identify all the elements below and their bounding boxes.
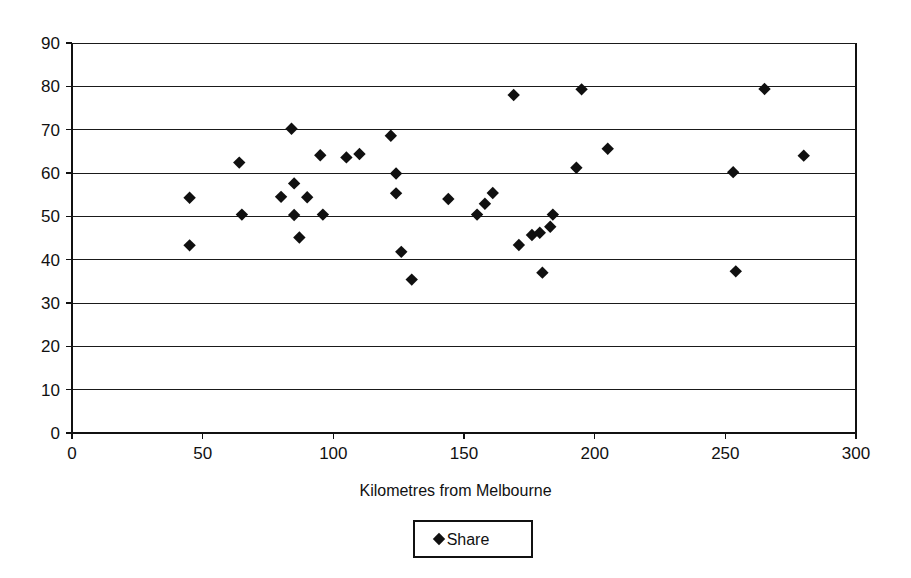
y-tick-label-30: 30: [41, 294, 60, 313]
legend: Share: [414, 521, 532, 557]
data-point: [758, 83, 770, 95]
chart-canvas: 0102030405060708090 050100150200250300 K…: [0, 0, 911, 578]
data-point: [285, 123, 297, 135]
x-axis-title: Kilometres from Melbourne: [359, 482, 551, 499]
data-point: [602, 143, 614, 155]
data-point: [507, 89, 519, 101]
data-point: [536, 266, 548, 278]
x-axis-tick-labels: 050100150200250300: [67, 444, 870, 463]
data-point: [183, 239, 195, 251]
scatter-chart: 0102030405060708090 050100150200250300 K…: [0, 0, 911, 578]
data-point: [288, 209, 300, 221]
tickmarks-group: [66, 43, 856, 439]
y-tick-label-60: 60: [41, 164, 60, 183]
y-tick-label-0: 0: [51, 424, 60, 443]
data-point: [575, 83, 587, 95]
x-tick-label-200: 200: [580, 444, 608, 463]
data-point: [570, 162, 582, 174]
data-point: [487, 187, 499, 199]
data-points-group: [183, 83, 810, 286]
data-point: [314, 149, 326, 161]
data-point: [395, 246, 407, 258]
legend-label-share: Share: [447, 531, 490, 548]
x-tick-label-250: 250: [711, 444, 739, 463]
data-point: [233, 156, 245, 168]
x-tick-label-50: 50: [193, 444, 212, 463]
data-point: [275, 191, 287, 203]
data-point: [406, 273, 418, 285]
data-point: [544, 221, 556, 233]
y-tick-label-80: 80: [41, 77, 60, 96]
data-point: [730, 265, 742, 277]
data-point: [479, 198, 491, 210]
x-tick-label-150: 150: [450, 444, 478, 463]
data-point: [301, 191, 313, 203]
data-point: [317, 208, 329, 220]
axis-frame-group: [72, 43, 856, 433]
data-point: [442, 193, 454, 205]
x-tick-label-300: 300: [842, 444, 870, 463]
data-point: [236, 208, 248, 220]
data-point: [353, 148, 365, 160]
data-point: [390, 167, 402, 179]
y-tick-label-20: 20: [41, 337, 60, 356]
data-point: [798, 149, 810, 161]
y-tick-label-50: 50: [41, 207, 60, 226]
data-point: [183, 192, 195, 204]
data-point: [293, 231, 305, 243]
x-tick-label-0: 0: [67, 444, 76, 463]
y-tick-label-90: 90: [41, 34, 60, 53]
y-tick-label-10: 10: [41, 381, 60, 400]
data-point: [727, 166, 739, 178]
y-axis-tick-labels: 0102030405060708090: [41, 34, 60, 443]
gridlines-group: [72, 43, 856, 390]
data-point: [513, 239, 525, 251]
data-point: [340, 151, 352, 163]
data-point: [288, 177, 300, 189]
data-point: [385, 130, 397, 142]
y-tick-label-70: 70: [41, 121, 60, 140]
x-tick-label-100: 100: [319, 444, 347, 463]
data-point: [547, 208, 559, 220]
data-point: [390, 187, 402, 199]
data-point: [471, 208, 483, 220]
y-tick-label-40: 40: [41, 251, 60, 270]
